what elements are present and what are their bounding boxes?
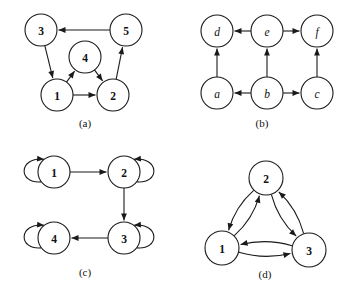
arrowhead-5-to-3 [59, 27, 66, 33]
arrowhead-b-to-c [293, 90, 300, 96]
node-label-4: 4 [82, 52, 88, 64]
node-label-3: 3 [121, 233, 127, 245]
arrowhead-1-to-2 [89, 92, 96, 98]
nodes-layer: 35412defabc1234213 [25, 14, 333, 267]
directed-graphs-figure: 35412defabc1234213 (a)(b)(c)(d) [0, 0, 350, 300]
arrowhead-1-to-2 [255, 196, 261, 204]
captions-layer: (a)(b)(c)(d) [79, 117, 272, 281]
arrowhead-3-to-1 [48, 71, 54, 78]
arrowhead-3-to-4 [72, 235, 79, 241]
node-label-1: 1 [54, 90, 60, 102]
arrowhead-1-to-4 [68, 71, 74, 78]
edge-1-to-3 [239, 252, 291, 256]
node-label-1: 1 [51, 167, 57, 179]
node-label-1: 1 [219, 243, 225, 255]
node-label-4: 4 [51, 233, 57, 245]
arrowhead-e-to-d [235, 28, 242, 34]
node-label-c: c [314, 88, 319, 100]
arrowhead-c-to-f [314, 49, 320, 56]
caption-panel-b: (b) [256, 117, 269, 130]
arrowhead-2-to-3 [121, 214, 127, 221]
figure-root: 35412defabc1234213 (a)(b)(c)(d) [0, 0, 350, 300]
node-label-d: d [214, 26, 220, 38]
caption-panel-a: (a) [79, 117, 92, 130]
arrowhead-4-to-2 [96, 74, 102, 81]
arrowhead-2-to-1 [228, 223, 234, 231]
node-label-b: b [264, 88, 270, 100]
arrowhead-b-to-a [235, 90, 242, 96]
node-label-5: 5 [123, 25, 129, 37]
node-label-a: a [214, 88, 220, 100]
node-label-2: 2 [110, 90, 116, 102]
edge-3-to-1 [241, 242, 293, 246]
arrowhead-b-to-e [264, 49, 270, 56]
arrowhead-a-to-d [214, 49, 220, 56]
node-label-e: e [264, 26, 269, 38]
caption-panel-c: (c) [79, 266, 92, 279]
node-label-3: 3 [306, 245, 312, 257]
node-label-2: 2 [263, 173, 269, 185]
node-label-3: 3 [38, 25, 44, 37]
arrowhead-e-to-f [293, 28, 300, 34]
arrowhead-1-to-2 [100, 169, 107, 175]
node-label-2: 2 [121, 167, 127, 179]
caption-panel-d: (d) [259, 268, 272, 281]
arrowhead-2-to-5 [118, 47, 124, 54]
